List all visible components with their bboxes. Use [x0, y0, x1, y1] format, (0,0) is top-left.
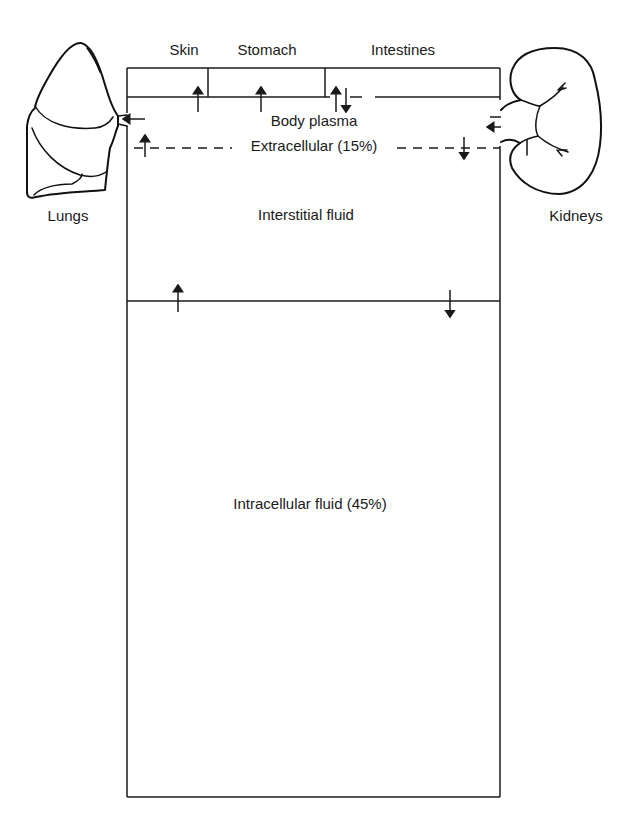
lungs-label: Lungs [48, 207, 89, 224]
intracellular-fluid-label: Intracellular fluid (45%) [233, 495, 386, 512]
stomach-label: Stomach [237, 41, 296, 58]
cell-membrane-divider [127, 288, 500, 314]
extracellular-label: Extracellular (15%) [251, 137, 378, 154]
skin-label: Skin [169, 41, 198, 58]
kidney-icon [501, 48, 601, 194]
lungs-icon [27, 43, 127, 198]
absorption-arrows [198, 88, 346, 112]
top-compartments-row [127, 68, 500, 97]
fluid-compartment-diagram: Skin Stomach Intestines Body plasma Extr… [0, 0, 631, 818]
interstitial-fluid-label: Interstitial fluid [258, 206, 354, 223]
body-fluid-box [127, 68, 500, 797]
body-plasma-label: Body plasma [271, 112, 358, 129]
intestines-label: Intestines [371, 41, 435, 58]
kidneys-label: Kidneys [549, 207, 602, 224]
